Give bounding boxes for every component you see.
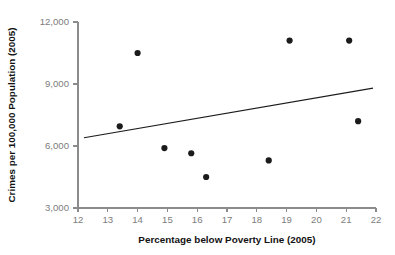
x-tick-label: 14 — [132, 214, 143, 225]
x-tick-label: 12 — [73, 214, 84, 225]
data-point — [286, 38, 292, 44]
plot-area: 3,0006,0009,00012,000 121314151617181920… — [0, 0, 395, 255]
data-point — [203, 174, 209, 180]
data-point — [355, 118, 361, 124]
x-tick-label: 16 — [192, 214, 203, 225]
data-point — [117, 123, 123, 129]
data-point — [188, 150, 194, 156]
x-tick-label: 22 — [371, 214, 382, 225]
scatter-chart: 3,0006,0009,00012,000 121314151617181920… — [0, 0, 395, 255]
data-point — [161, 145, 167, 151]
x-tick-label: 13 — [102, 214, 113, 225]
x-axis-title: Percentage below Poverty Line (2005) — [138, 234, 315, 245]
x-tick-label: 20 — [311, 214, 322, 225]
x-tick-label: 15 — [162, 214, 173, 225]
regression-line — [84, 88, 373, 138]
data-points — [117, 38, 362, 181]
y-tick-label: 3,000 — [45, 202, 69, 213]
x-tick-label: 18 — [251, 214, 262, 225]
y-axis: 3,0006,0009,00012,000 — [40, 16, 78, 213]
y-axis-title: Crimes per 100,000 Population (2005) — [6, 27, 17, 202]
data-point — [266, 157, 272, 163]
x-axis: 1213141516171819202122 — [73, 208, 382, 225]
y-tick-label: 9,000 — [45, 78, 69, 89]
y-tick-label: 6,000 — [45, 140, 69, 151]
y-tick-label: 12,000 — [40, 16, 69, 27]
data-point — [346, 38, 352, 44]
x-tick-label: 17 — [222, 214, 233, 225]
data-point — [135, 50, 141, 56]
trend-line — [84, 88, 373, 138]
x-tick-label: 19 — [281, 214, 292, 225]
x-tick-label: 21 — [341, 214, 352, 225]
